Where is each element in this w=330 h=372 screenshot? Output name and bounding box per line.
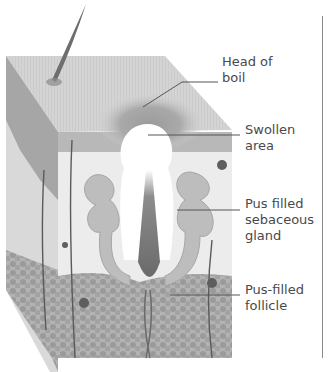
label-line: follicle bbox=[245, 298, 304, 314]
label-swollen-area: Swollen area bbox=[245, 122, 295, 154]
skin-cross-section-illustration bbox=[0, 0, 330, 372]
label-line: Head of bbox=[222, 54, 273, 70]
label-line: gland bbox=[245, 228, 314, 244]
divider-line bbox=[322, 16, 323, 358]
label-line: area bbox=[245, 138, 295, 154]
label-line: Pus-filled bbox=[245, 282, 304, 298]
label-sebaceous-gland: Pus filled sebaceous gland bbox=[245, 196, 314, 244]
label-line: boil bbox=[222, 70, 273, 86]
label-line: Pus filled bbox=[245, 196, 314, 212]
label-line: sebaceous bbox=[245, 212, 314, 228]
label-follicle: Pus-filled follicle bbox=[245, 282, 304, 314]
label-head-of-boil: Head of boil bbox=[222, 54, 273, 86]
boil-diagram: Head of boil Swollen area Pus filled seb… bbox=[0, 0, 330, 372]
label-line: Swollen bbox=[245, 122, 295, 138]
